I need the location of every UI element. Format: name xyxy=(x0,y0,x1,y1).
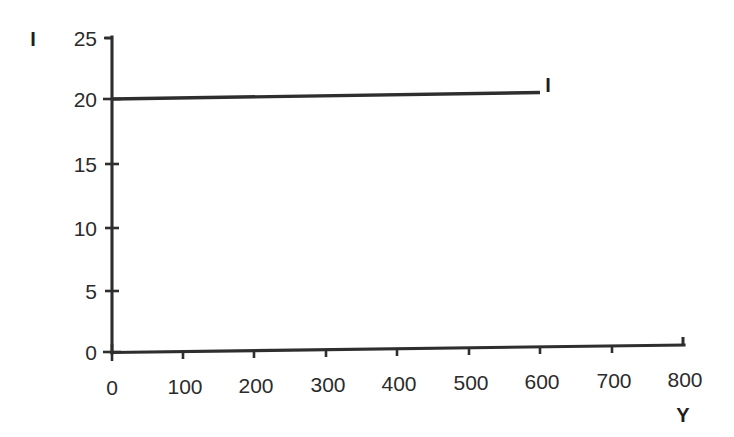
y-axis-title: I xyxy=(30,28,36,50)
y-tick-label-15: 15 xyxy=(74,153,97,176)
x-tick-label-100: 100 xyxy=(167,375,202,398)
x-tick-label-400: 400 xyxy=(381,372,416,395)
x-axis-title: Y xyxy=(676,404,690,426)
y-tick-label-10: 10 xyxy=(74,217,97,240)
series-line-I xyxy=(112,93,540,100)
x-tick-label-200: 200 xyxy=(238,374,273,397)
y-tick-label-5: 5 xyxy=(85,280,97,303)
data-series-group: I xyxy=(112,74,551,99)
x-tick-label-800: 800 xyxy=(667,368,702,391)
line-chart-plot: 25 20 15 10 5 0 I 0 100 xyxy=(0,0,734,437)
x-tick-label-700: 700 xyxy=(596,369,631,392)
series-label-I: I xyxy=(545,74,551,96)
y-tick-label-0: 0 xyxy=(85,341,97,364)
x-axis-group: 0 100 200 300 400 500 600 700 800 Y xyxy=(106,337,702,426)
x-tick-label-600: 600 xyxy=(524,370,559,393)
x-tick-label-500: 500 xyxy=(453,371,488,394)
y-tick-label-20: 20 xyxy=(74,88,97,111)
x-tick-label-0: 0 xyxy=(106,376,118,399)
chart-figure: 25 20 15 10 5 0 I 0 100 xyxy=(0,0,734,437)
y-axis-group: 25 20 15 10 5 0 I xyxy=(30,27,121,364)
x-tick-label-300: 300 xyxy=(310,373,345,396)
y-tick-label-25: 25 xyxy=(74,27,97,50)
